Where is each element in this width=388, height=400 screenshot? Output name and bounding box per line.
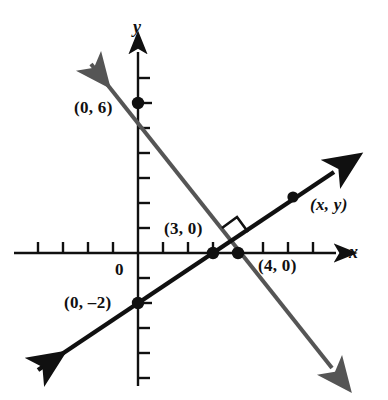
label-point-0-neg2: (0, –2) xyxy=(64,294,111,311)
label-point-4-0: (4, 0) xyxy=(258,257,297,274)
point-0-neg2-dot xyxy=(132,297,144,309)
label-point-0-6: (0, 6) xyxy=(74,99,113,116)
x-axis xyxy=(14,242,336,253)
x-axis-ticks xyxy=(38,242,313,253)
point-3-0-dot xyxy=(207,247,219,259)
point-0-6-dot xyxy=(132,97,144,109)
origin-label: 0 xyxy=(115,261,124,278)
figure-container: y x 0 (0, 6) (3, 0) (4, 0) (0, –2) (x, y… xyxy=(0,0,388,400)
label-point-x-y: (x, y) xyxy=(310,196,348,213)
point-x-y-dot xyxy=(287,191,298,202)
y-axis-label: y xyxy=(133,18,141,36)
label-point-3-0: (3, 0) xyxy=(164,220,203,237)
descending-line xyxy=(91,64,332,368)
x-axis-label: x xyxy=(349,243,358,261)
point-4-0-dot xyxy=(232,247,244,259)
